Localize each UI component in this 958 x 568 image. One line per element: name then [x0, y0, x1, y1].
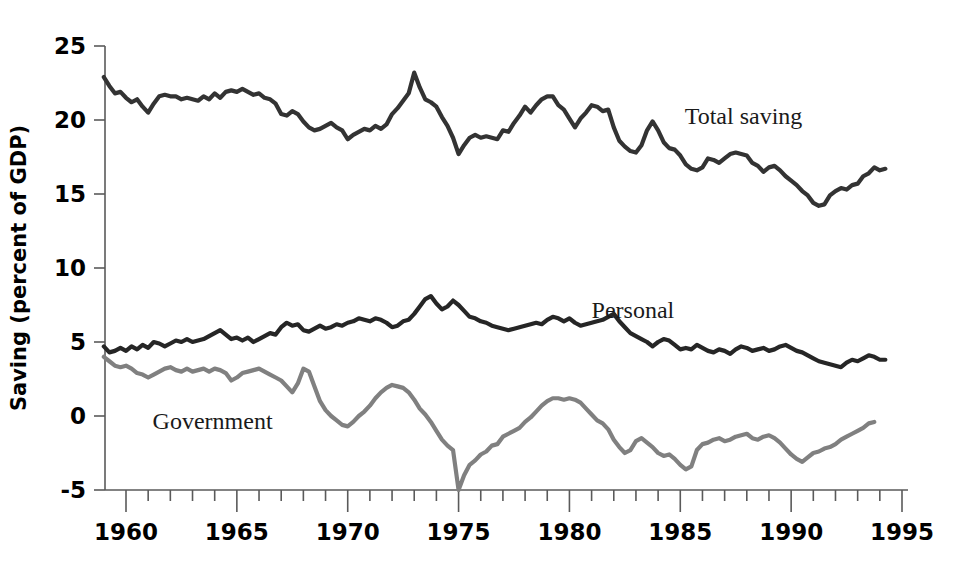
y-tick-label: 5: [70, 329, 86, 355]
y-tick-label: 20: [54, 107, 86, 133]
series-line-total-saving: [104, 73, 886, 206]
y-tick-label: 10: [54, 255, 86, 281]
annotation-total-saving: Total saving: [685, 103, 803, 129]
x-tick-label: 1990: [759, 519, 823, 545]
y-tick-label: -5: [60, 477, 86, 503]
series-line-personal: [104, 296, 886, 367]
x-tick-label: 1980: [537, 519, 601, 545]
saving-chart-figure: -505101520251960196519701975198019851990…: [0, 0, 958, 568]
x-tick-label: 1985: [648, 519, 712, 545]
y-tick-label: 15: [54, 181, 86, 207]
y-tick-label: 0: [70, 403, 86, 429]
x-tick-label: 1975: [427, 519, 491, 545]
x-tick-label: 1970: [316, 519, 380, 545]
annotation-government: Government: [153, 408, 273, 434]
x-tick-label: 1995: [870, 519, 934, 545]
y-axis-title: Saving (percent of GDP): [7, 125, 31, 411]
y-tick-label: 25: [54, 33, 86, 59]
x-tick-label: 1960: [94, 519, 158, 545]
x-tick-label: 1965: [205, 519, 269, 545]
chart-canvas: -505101520251960196519701975198019851990…: [0, 0, 958, 568]
annotation-personal: Personal: [592, 297, 675, 323]
